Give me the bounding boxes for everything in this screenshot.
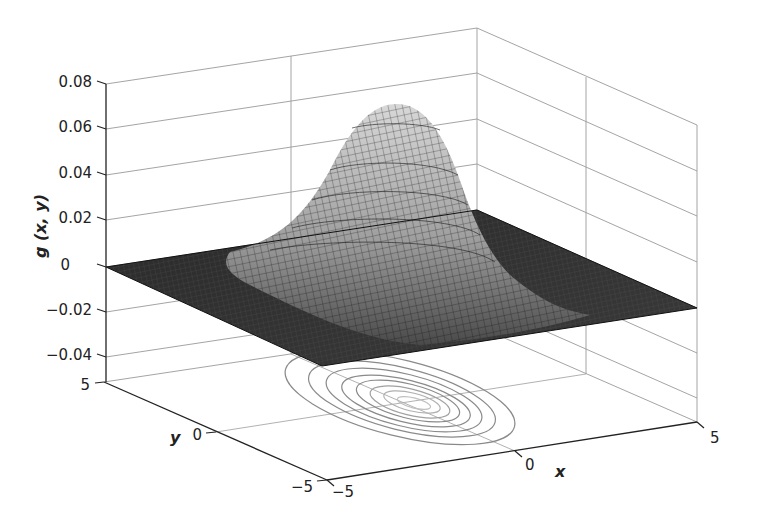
surface-mesh (106, 104, 697, 366)
svg-text:−5: −5 (291, 478, 313, 496)
z-tick-labels: 0.08 0.06 0.04 0.02 0 −0.02 −0.04 (46, 73, 92, 364)
svg-text:−5: −5 (332, 483, 354, 501)
x-axis-label: x (554, 462, 566, 481)
svg-text:0.04: 0.04 (59, 164, 92, 182)
svg-text:5: 5 (80, 376, 90, 394)
svg-text:0.02: 0.02 (59, 209, 92, 227)
svg-text:0.08: 0.08 (59, 73, 92, 91)
z-axis-label: g (x, y) (31, 194, 50, 258)
y-axis-line (104, 382, 327, 480)
svg-text:−0.04: −0.04 (46, 346, 92, 364)
svg-text:0: 0 (192, 426, 202, 444)
x-tick-labels: −5 0 5 (332, 429, 720, 501)
y-tick-labels: 5 0 −5 (80, 376, 313, 496)
svg-text:0: 0 (525, 456, 535, 474)
svg-text:−0.02: −0.02 (46, 301, 92, 319)
svg-text:5: 5 (710, 429, 720, 447)
y-axis-label: y (170, 428, 181, 447)
svg-text:0.06: 0.06 (59, 118, 92, 136)
surface-plot: 0.08 0.06 0.04 0.02 0 −0.02 −0.04 5 0 −5… (0, 0, 758, 516)
floor-grid (216, 354, 586, 451)
svg-text:0: 0 (60, 256, 70, 274)
